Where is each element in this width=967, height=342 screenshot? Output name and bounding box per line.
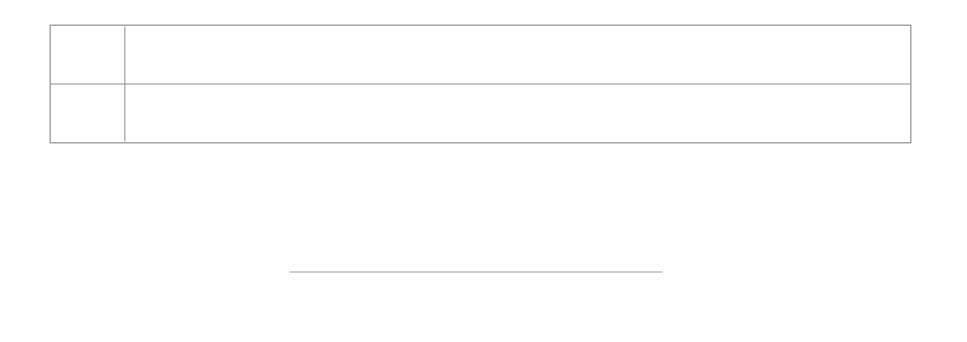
tinnitus-waveform-svg — [49, 24, 912, 144]
pulse-chart-panel — [286, 218, 666, 280]
tinnitus-chart-panel — [49, 24, 912, 144]
figure-root — [0, 0, 967, 342]
pulse-train-svg — [286, 218, 666, 280]
